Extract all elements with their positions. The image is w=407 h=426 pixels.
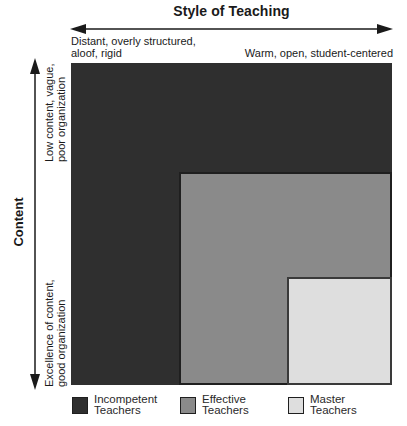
x-axis-left-label: Distant, overly structured, aloof, rigid xyxy=(71,35,241,59)
region-master-teachers xyxy=(287,277,392,385)
legend-label-line2: Teachers xyxy=(310,405,357,416)
x-axis-left-label-line2: aloof, rigid xyxy=(71,47,241,59)
legend-item-effective: Effective Teachers xyxy=(180,394,249,416)
legend-label-line2: Teachers xyxy=(202,405,249,416)
y-axis-title-text: Content xyxy=(11,197,26,246)
x-axis-right-label: Warm, open, student-centered xyxy=(245,47,393,59)
legend-label: Effective Teachers xyxy=(202,394,249,416)
legend-item-master: Master Teachers xyxy=(288,394,357,416)
legend-swatch-medium xyxy=(180,397,196,414)
legend-swatch-light xyxy=(288,397,304,414)
legend-label: Incompetent Teachers xyxy=(94,394,157,416)
x-axis-left-label-line1: Distant, overly structured, xyxy=(71,35,241,47)
legend-label-line2: Teachers xyxy=(94,405,157,416)
y-axis-top-label-line1: Low content, vague, xyxy=(43,64,55,162)
x-axis-title: Style of Teaching xyxy=(70,3,393,19)
vertical-double-arrow-icon xyxy=(30,58,40,390)
y-axis-top-label-line2: poor organization xyxy=(55,77,67,162)
y-axis-bottom-label-line1: Excellence of content, xyxy=(43,279,55,387)
legend-item-incompetent: Incompetent Teachers xyxy=(72,394,157,416)
horizontal-double-arrow-icon xyxy=(70,24,393,34)
legend-label: Master Teachers xyxy=(310,394,357,416)
legend-swatch-dark xyxy=(72,397,88,414)
y-axis-bottom-label-line2: good organization xyxy=(55,300,67,387)
